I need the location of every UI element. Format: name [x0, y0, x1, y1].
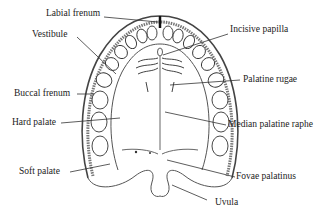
soft-palate-uvula-outline	[88, 170, 232, 196]
fovae-dot-left	[135, 151, 137, 153]
incisive-papilla-mark	[158, 48, 163, 56]
label-soft-palate: Soft palate	[19, 167, 60, 177]
label-palatine-rugae: Palatine rugae	[243, 75, 297, 85]
label-vestibule: Vestibule	[32, 30, 67, 40]
label-fovae-palatinus: Fovae palatinus	[236, 172, 296, 182]
label-median-palatine-raphe: Median palatine raphe	[228, 120, 313, 130]
teeth-right	[163, 26, 229, 156]
palate-diagram: Labial frenum Vestibule Buccal frenum Ha…	[0, 0, 331, 212]
label-buccal-frenum: Buccal frenum	[14, 89, 70, 99]
label-uvula: Uvula	[215, 198, 238, 208]
fovae-dot-right	[149, 152, 151, 154]
label-labial-frenum: Labial frenum	[46, 9, 100, 19]
label-incisive-papilla: Incisive papilla	[230, 25, 288, 35]
label-hard-palate: Hard palate	[12, 118, 56, 128]
teeth-left	[91, 26, 157, 156]
